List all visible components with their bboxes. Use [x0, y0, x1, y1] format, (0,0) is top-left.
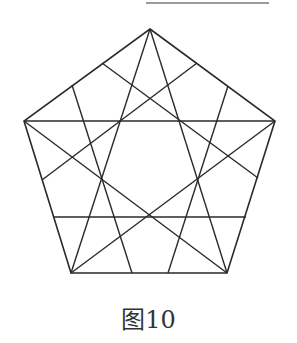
line-diag-AD [71, 29, 150, 273]
figure-caption: 图10 [0, 300, 297, 335]
inner-lines [24, 29, 275, 273]
pentagon-outline [24, 29, 275, 273]
line-diag-EC [24, 121, 227, 273]
line-diag-BD [71, 121, 275, 273]
pentagon-figure [0, 0, 297, 343]
line-diag-AC [150, 29, 227, 273]
